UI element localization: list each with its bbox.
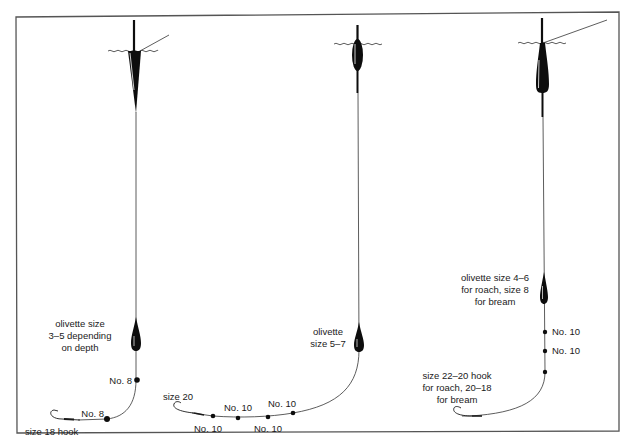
hook-label-3-line-2: for roach, 20–18 bbox=[422, 382, 491, 393]
hook-label-2: size 20 bbox=[163, 391, 193, 402]
olivette-label-1-line-1: olivette size bbox=[55, 318, 105, 329]
hook-shank-2 bbox=[194, 413, 204, 415]
shot-label-2b: No. 10 bbox=[268, 398, 296, 409]
olivette-label-1-line-3: on depth bbox=[62, 342, 99, 353]
hook-label-3-line-1: size 22–20 hook bbox=[422, 370, 491, 381]
shot-label-2d: No. 10 bbox=[254, 423, 282, 434]
split-shot bbox=[134, 377, 140, 383]
olivette-label-3-line-3: for bream bbox=[475, 296, 516, 307]
olivette-2 bbox=[354, 322, 364, 352]
rig-2 bbox=[174, 25, 382, 420]
hook-label-3-line-3: for bream bbox=[437, 394, 478, 405]
shot-label-3a: No. 10 bbox=[552, 326, 580, 337]
hook-shank-1 bbox=[64, 419, 74, 420]
hook-3 bbox=[454, 407, 472, 417]
rod-line-1 bbox=[140, 35, 169, 51]
split-shot bbox=[543, 330, 547, 334]
olivette-1 bbox=[131, 317, 141, 351]
split-shot bbox=[104, 416, 110, 422]
float-body-2 bbox=[352, 39, 363, 71]
rig-1 bbox=[51, 20, 169, 422]
float-body-1 bbox=[128, 51, 141, 113]
float-body-3 bbox=[536, 43, 549, 93]
hook-label-1: size 18 hook bbox=[25, 426, 78, 437]
shot-label-2a: No. 10 bbox=[224, 402, 252, 413]
split-shot bbox=[266, 415, 271, 420]
olivette-label-2-line-2: size 5–7 bbox=[310, 338, 345, 349]
diagram-frame bbox=[16, 12, 619, 433]
olivette-label-1-line-2: 3–5 depending bbox=[49, 330, 112, 341]
shot-label-3b: No. 10 bbox=[552, 345, 580, 356]
rod-line-3 bbox=[543, 20, 607, 43]
olivette-label-3-line-2: for roach, size 8 bbox=[461, 284, 529, 295]
olivette-3 bbox=[540, 272, 548, 304]
olivette-label-3-line-1: olivette size 4–6 bbox=[461, 272, 529, 283]
split-shot bbox=[211, 414, 216, 419]
main-line-2 bbox=[192, 93, 359, 417]
hook-2 bbox=[174, 402, 194, 413]
shot-label-1b: No. 8 bbox=[81, 408, 104, 419]
split-shot bbox=[543, 349, 547, 353]
olivette-label-2-line-1: olivette bbox=[313, 326, 343, 337]
main-line-1 bbox=[78, 112, 136, 420]
float-highlight-3 bbox=[539, 60, 540, 88]
shot-label-1a: No. 8 bbox=[109, 375, 132, 386]
shot-label-2c: No. 10 bbox=[194, 423, 222, 434]
split-shot bbox=[291, 411, 296, 416]
split-shot bbox=[543, 370, 547, 374]
split-shot bbox=[236, 416, 241, 421]
fishing-rig-diagram bbox=[0, 0, 631, 448]
rig-3 bbox=[454, 18, 607, 416]
